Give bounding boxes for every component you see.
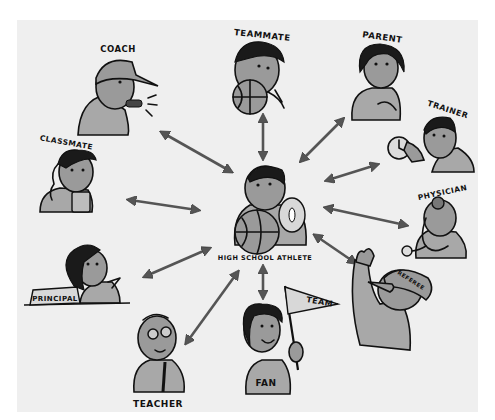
node-physician: PHYSICIAN: [402, 183, 468, 258]
classmate-label: CLASSMATE: [39, 133, 94, 151]
relationship-diagram: HIGH SCHOOL ATHLETE COACH TEAMMATE PAREN…: [0, 0, 495, 420]
principal-label: PRINCIPAL: [32, 295, 78, 303]
arrow-physician: [327, 208, 405, 225]
coach-label: COACH: [100, 44, 136, 54]
arrow-coach: [163, 133, 230, 171]
node-parent: PARENT: [352, 29, 404, 120]
athlete-label: HIGH SCHOOL ATHLETE: [218, 254, 313, 262]
arrow-referee: [316, 236, 354, 262]
node-coach: COACH: [78, 44, 158, 135]
arrow-teacher: [187, 273, 237, 342]
node-athlete: HIGH SCHOOL ATHLETE: [218, 166, 313, 262]
node-teacher: TEACHER: [133, 314, 184, 409]
node-classmate: CLASSMATE: [39, 133, 96, 212]
fan-label: FAN: [255, 378, 276, 388]
parent-label: PARENT: [362, 29, 403, 45]
whistle-icon: [126, 100, 142, 107]
glasses-icon: [148, 329, 158, 339]
book-icon: [72, 192, 90, 212]
node-teammate: TEAMMATE: [233, 27, 291, 114]
node-fan: TEAM FAN: [243, 286, 338, 394]
arrow-trainer: [328, 165, 376, 180]
teammate-label: TEAMMATE: [234, 27, 291, 43]
arrow-parent: [302, 120, 342, 160]
teacher-label: TEACHER: [133, 399, 183, 409]
arrow-principal: [146, 249, 208, 276]
node-principal: PRINCIPAL: [24, 245, 130, 305]
arrow-classmate: [130, 200, 197, 210]
node-referee: REFEREE: [352, 249, 431, 350]
